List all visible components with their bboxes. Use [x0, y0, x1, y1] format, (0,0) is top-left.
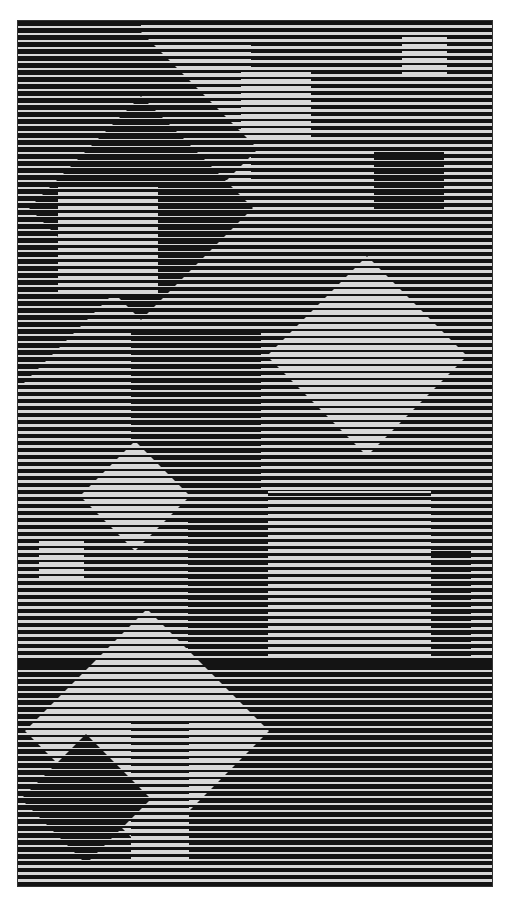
- rect-shape: [374, 149, 444, 214]
- rect-shape: [241, 71, 311, 141]
- op-art-canvas: [17, 20, 493, 887]
- rect-shape: [402, 34, 447, 76]
- rect-shape: [58, 186, 158, 296]
- rect-shape: [188, 521, 268, 661]
- rect-shape: [268, 491, 431, 656]
- diamond-shape: [267, 256, 467, 456]
- rect-shape: [39, 541, 84, 583]
